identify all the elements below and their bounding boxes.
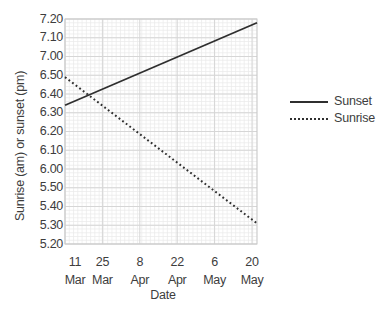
- y-tick-label: 5.20: [40, 237, 63, 252]
- x-tick-month: May: [241, 271, 264, 289]
- y-tick-label: 7.00: [40, 49, 63, 64]
- y-tick-label: 6.40: [40, 87, 63, 102]
- x-tick-day: 25: [92, 253, 113, 271]
- y-tick-label: 6.00: [40, 162, 63, 177]
- y-tick-label: 5.40: [40, 199, 63, 214]
- x-tick-label: 22Apr: [168, 253, 187, 289]
- x-tick-month: Mar: [92, 271, 113, 289]
- x-tick-month: Apr: [131, 271, 150, 289]
- y-tick-label: 7.10: [40, 30, 63, 45]
- y-tick-label: 6.50: [40, 68, 63, 83]
- y-tick-label: 6.20: [40, 124, 63, 139]
- y-axis-tick-labels: 7.207.107.006.506.406.306.206.106.005.50…: [0, 0, 63, 321]
- x-tick-month: Mar: [65, 271, 86, 289]
- x-tick-label: 8Apr: [131, 253, 150, 289]
- y-tick-label: 6.30: [40, 105, 63, 120]
- sunrise-sunset-chart: Sunrise (am) or sunset (pm) 7.207.107.00…: [0, 0, 382, 321]
- legend-item-sunset: Sunset: [290, 93, 375, 110]
- legend-label-sunset: Sunset: [334, 93, 372, 110]
- y-tick-label: 5.30: [40, 218, 63, 233]
- legend: Sunset Sunrise: [290, 93, 375, 127]
- x-tick-day: 20: [241, 253, 264, 271]
- solid-line-swatch: [290, 101, 328, 103]
- x-tick-label: 25Mar: [92, 253, 113, 289]
- legend-item-sunrise: Sunrise: [290, 110, 375, 127]
- x-tick-day: 11: [65, 253, 86, 271]
- x-tick-month: Apr: [168, 271, 187, 289]
- x-tick-day: 22: [168, 253, 187, 271]
- x-tick-label: 20May: [241, 253, 264, 289]
- x-tick-day: 8: [131, 253, 150, 271]
- x-axis-title: Date: [150, 288, 176, 302]
- y-tick-label: 6.10: [40, 143, 63, 158]
- x-tick-month: May: [203, 271, 226, 289]
- dotted-line-swatch: [290, 118, 328, 120]
- y-tick-label: 5.50: [40, 180, 63, 195]
- x-tick-label: 6May: [203, 253, 226, 289]
- legend-label-sunrise: Sunrise: [334, 110, 375, 127]
- y-tick-label: 7.20: [40, 12, 63, 27]
- x-tick-day: 6: [203, 253, 226, 271]
- x-tick-label: 11Mar: [65, 253, 86, 289]
